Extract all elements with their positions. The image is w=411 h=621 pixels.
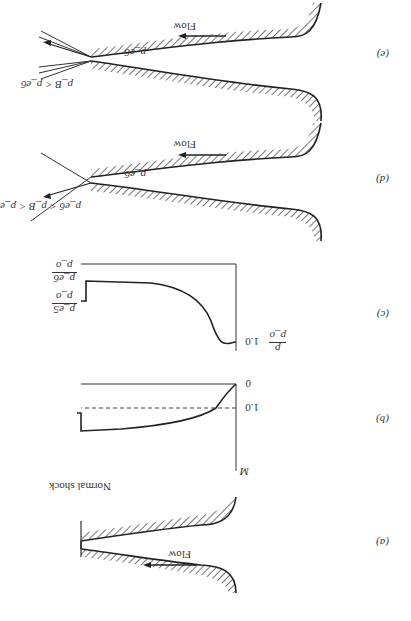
pressure-axis-label: p p_o	[270, 330, 287, 355]
normal-shock-label: Normal shock	[49, 481, 111, 493]
mach-tick-0: 0	[246, 378, 252, 390]
panel-a-label: (a)	[376, 537, 389, 549]
panel-b-label: (b)	[376, 414, 389, 426]
nozzle-figure: (a) Flow Normal shock (b) M 0 1.0 (c) 1.…	[0, 0, 411, 621]
pe5-ratio-label: p_e5 p_o	[52, 291, 77, 316]
mach-axis-label: M	[240, 466, 249, 478]
condition-label-e: p_B < p_e6	[21, 79, 73, 91]
panel-c-pressure-chart	[81, 264, 236, 351]
mach-tick-1: 1.0	[245, 402, 259, 414]
exit-pressure-label-e: p_e6	[125, 47, 146, 59]
flow-label-e: Flow	[173, 21, 196, 33]
flow-label-a: Flow	[168, 549, 191, 561]
panel-e-label: (e)	[377, 49, 389, 61]
pressure-tick-1: 1.0	[245, 336, 259, 348]
exit-pressure-label-d: p_e6	[125, 169, 146, 181]
panel-b-mach-chart	[77, 384, 236, 471]
panel-c-label: (c)	[377, 309, 389, 321]
panel-a-nozzle	[81, 497, 236, 593]
condition-label-d: p_e6 < p_B < p_e5	[0, 201, 81, 213]
flow-label-d: Flow	[173, 139, 196, 151]
pe6-ratio-label: p_e6 p_o	[52, 260, 77, 285]
panel-d-label: (d)	[376, 174, 389, 186]
